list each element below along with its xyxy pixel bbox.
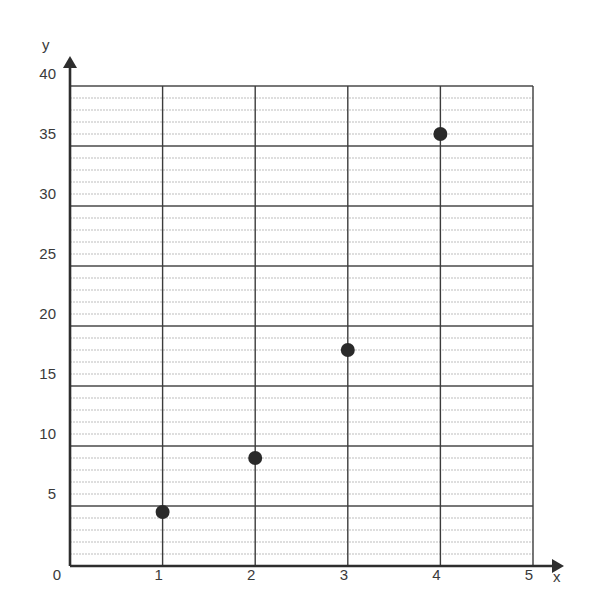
axes: y x [42, 36, 564, 585]
data-point [156, 505, 170, 519]
data-point [341, 343, 355, 357]
y-tick-label: 20 [39, 305, 56, 322]
y-tick-label: 25 [39, 245, 56, 262]
scatter-chart: y x 510152025303540 012345 [0, 0, 593, 615]
data-point [248, 451, 262, 465]
y-tick-label: 15 [39, 365, 56, 382]
y-tick-label: 30 [39, 185, 56, 202]
y-axis-label: y [42, 36, 50, 53]
y-tick-label: 40 [39, 65, 56, 82]
x-tick-labels: 012345 [53, 566, 533, 583]
x-tick-label: 0 [53, 566, 61, 583]
y-tick-label: 5 [48, 485, 56, 502]
y-tick-label: 35 [39, 125, 56, 142]
y-tick-labels: 510152025303540 [39, 65, 56, 502]
data-point [433, 127, 447, 141]
x-tick-label: 4 [432, 566, 440, 583]
x-tick-label: 5 [525, 566, 533, 583]
y-tick-label: 10 [39, 425, 56, 442]
data-points [156, 127, 448, 519]
x-tick-label: 2 [247, 566, 255, 583]
x-axis-label: x [553, 568, 561, 585]
y-axis-arrow-icon [63, 56, 77, 68]
x-tick-label: 1 [154, 566, 162, 583]
major-gridlines [70, 86, 533, 506]
x-tick-label: 3 [340, 566, 348, 583]
